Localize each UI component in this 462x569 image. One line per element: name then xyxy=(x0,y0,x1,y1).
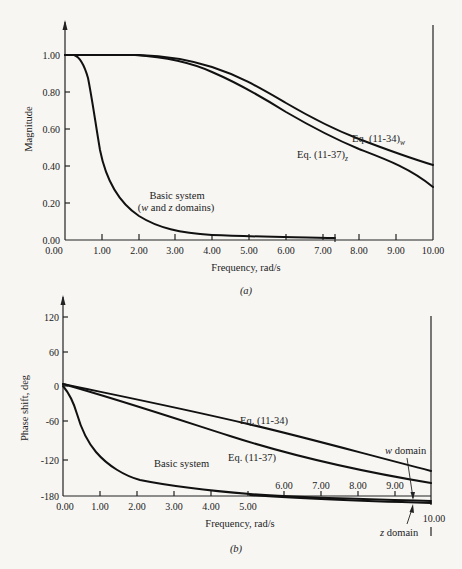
chart-a-series-eq-11-34 xyxy=(65,55,433,165)
chart-a-label-eq-11-34: Eq. (11-34)w xyxy=(352,133,405,147)
chart-b-series-basic-system xyxy=(63,386,431,501)
chart-b-y-axis-title: Phase shift, deg xyxy=(19,374,30,441)
chart-b-label-eq-11-37: Eq. (11-37) xyxy=(228,452,277,464)
chart-a-xtick-label: 9.00 xyxy=(387,245,405,256)
chart-a-xtick-label: 7.00 xyxy=(314,245,332,256)
chart-b-y-ticks: 120 60 0 -60 -120 -180 xyxy=(41,312,68,502)
chart-b-z-domain-arrow-icon xyxy=(410,504,415,513)
chart-a-xtick-label: 4.00 xyxy=(203,245,221,256)
chart-b-xtick-label: 2.00 xyxy=(128,501,146,512)
chart-a-xtick-label: 5.00 xyxy=(240,245,258,256)
chart-a-ytick-label: 0.60 xyxy=(43,124,61,135)
chart-b-xtick-label-upper: 9.00 xyxy=(386,480,404,491)
chart-a-xtick-label: 10.00 xyxy=(422,245,445,256)
chart-a-label-basic-system-domains: (w and z domains) xyxy=(138,202,215,214)
chart-a-xtick-label: 8.00 xyxy=(350,245,368,256)
chart-a-y-axis-arrow-icon xyxy=(63,20,68,30)
chart-a-y-axis-title: Magnitude xyxy=(23,106,34,152)
chart-b-label-w-domain: w domain xyxy=(385,445,427,456)
chart-b-label-z-domain: z domain xyxy=(379,527,419,538)
chart-b-x-axis-title: Frequency, rad/s xyxy=(205,518,274,529)
chart-b-ytick-label: -60 xyxy=(46,416,59,427)
chart-b-caption: (b) xyxy=(230,543,243,555)
chart-a-ytick-label: 1.00 xyxy=(43,50,61,61)
chart-a-x-ticks: 0.00 1.00 2.00 3.00 4.00 5.00 6.00 7.00 … xyxy=(45,234,444,256)
chart-b-xtick-label-upper: 8.00 xyxy=(349,480,367,491)
chart-b-y-axis-arrow-icon xyxy=(61,295,66,305)
chart-a-label-basic-system: Basic system xyxy=(149,190,204,201)
chart-a-xtick-label: 0.00 xyxy=(45,245,63,256)
chart-b-xtick-label: 1.00 xyxy=(91,501,109,512)
chart-a-xtick-label: 1.00 xyxy=(93,245,111,256)
chart-a-xtick-label: 2.00 xyxy=(130,245,148,256)
chart-a-x-axis-title: Frequency, rad/s xyxy=(211,262,280,273)
chart-b-xtick-label: 3.00 xyxy=(165,501,183,512)
chart-a-ytick-label: 0.40 xyxy=(43,161,61,172)
chart-a-ytick-label: 0.80 xyxy=(43,87,61,98)
chart-b-xtick-label: 0.00 xyxy=(56,501,74,512)
chart-b-xtick-label-upper: 7.00 xyxy=(312,480,330,491)
chart-b-xtick-label: 5.00 xyxy=(239,501,257,512)
chart-b-xtick-label: 4.00 xyxy=(202,501,220,512)
figure: 0.00 0.20 0.40 0.60 0.80 1.00 0.00 1.00 … xyxy=(0,0,462,569)
chart-b-series-eq-11-37 xyxy=(63,384,431,483)
chart-a-xtick-label: 6.00 xyxy=(277,245,295,256)
chart-a-series-eq-11-37 xyxy=(65,55,433,187)
chart-b-ytick-label: 0 xyxy=(54,381,59,392)
chart-b-ytick-label: -120 xyxy=(41,455,59,466)
chart-a-xtick-label: 3.00 xyxy=(166,245,184,256)
chart-b-xtick-label-upper: 6.00 xyxy=(275,480,293,491)
chart-a-label-eq-11-37: Eq. (11-37)z xyxy=(297,149,348,163)
chart-a-y-ticks: 0.00 0.20 0.40 0.60 0.80 1.00 xyxy=(43,50,71,246)
chart-b-ytick-label: 120 xyxy=(44,312,59,323)
chart-a: 0.00 0.20 0.40 0.60 0.80 1.00 0.00 1.00 … xyxy=(23,20,444,297)
chart-b-xtick-label-end: 10.00 xyxy=(423,513,446,524)
chart-b-label-eq-11-34: Eq. (11-34) xyxy=(240,415,289,427)
chart-a-ytick-label: 0.20 xyxy=(43,198,61,209)
chart-a-caption: (a) xyxy=(240,285,253,297)
chart-b-label-basic-system: Basic system xyxy=(154,458,209,469)
chart-b-ytick-label: 60 xyxy=(49,347,59,358)
chart-b: 120 60 0 -60 -120 -180 0.00 1.00 2.00 3.… xyxy=(19,295,445,555)
